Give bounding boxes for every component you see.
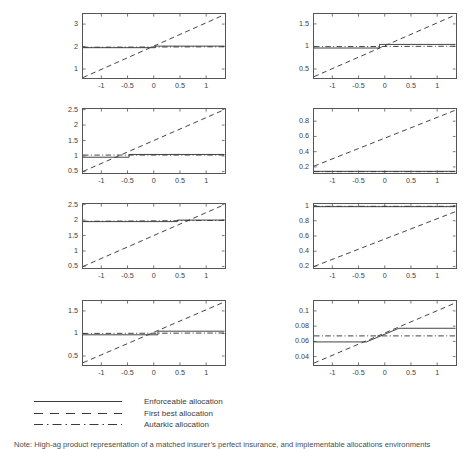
chart-panel: 0.040.060.080.1-1-0.500.51 bbox=[0, 0, 467, 449]
legend-label-autarkic: Autarkic allocation bbox=[144, 419, 209, 430]
legend-line-solid bbox=[34, 400, 122, 403]
x-tick-label: -0.5 bbox=[345, 369, 373, 377]
x-tick-label: 1 bbox=[423, 369, 451, 377]
series-line-dashed bbox=[314, 303, 456, 363]
legend-label-enforceable: Enforceable allocation bbox=[144, 396, 223, 407]
y-tick-label: 0.04 bbox=[271, 353, 309, 361]
y-tick-label: 0.1 bbox=[271, 307, 309, 315]
plot-lines bbox=[314, 301, 456, 365]
y-tick-label: 0.08 bbox=[271, 322, 309, 330]
figure-legend: Enforceable allocation First best alloca… bbox=[34, 396, 334, 431]
legend-entry-enforceable: Enforceable allocation bbox=[34, 396, 334, 408]
x-tick-label: -1 bbox=[318, 369, 346, 377]
y-tick-label: 0.06 bbox=[271, 337, 309, 345]
legend-entry-first-best: First best allocation bbox=[34, 408, 334, 420]
legend-label-first-best: First best allocation bbox=[144, 408, 213, 419]
legend-line-dashdot bbox=[34, 423, 122, 426]
x-tick-label: 0.5 bbox=[397, 369, 425, 377]
legend-entry-autarkic: Autarkic allocation bbox=[34, 419, 334, 431]
figure-panel-grid: 123-1-0.500.510.511.5-1-0.500.510.511.52… bbox=[0, 0, 467, 449]
plot-area bbox=[313, 300, 457, 366]
x-tick-label: 0 bbox=[371, 369, 399, 377]
series-line-solid bbox=[314, 328, 456, 342]
figure-caption: Note: High-ag product representation of … bbox=[14, 440, 464, 449]
legend-line-dashed bbox=[34, 412, 122, 415]
